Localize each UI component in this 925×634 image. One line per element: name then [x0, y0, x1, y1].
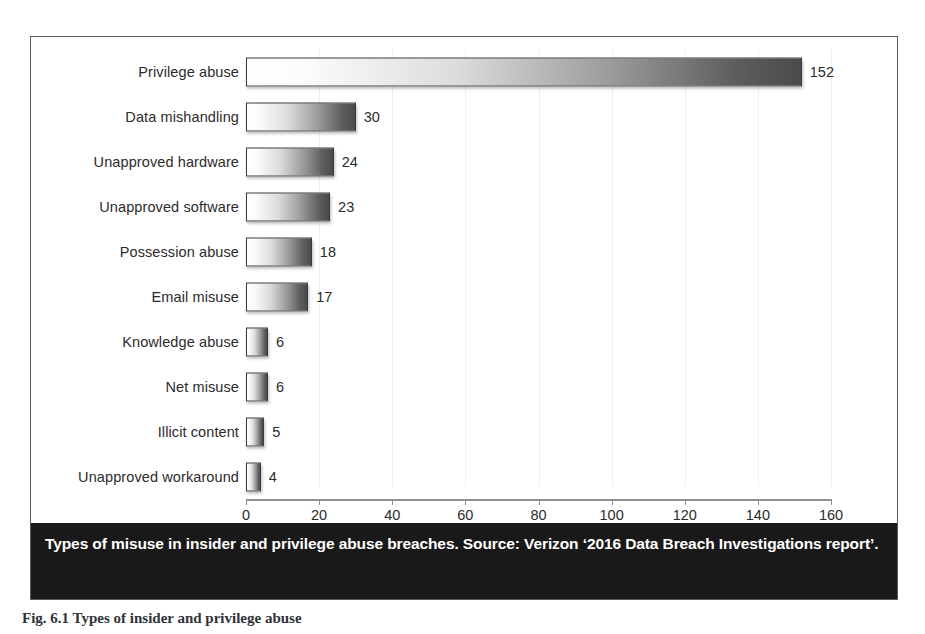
bar-track: 5 — [246, 409, 897, 454]
x-tick-140 — [758, 499, 759, 505]
bar-track: 6 — [246, 364, 897, 409]
category-label: Email misuse — [31, 289, 239, 305]
x-tick-label: 140 — [746, 507, 770, 523]
bar — [246, 462, 261, 491]
x-tick-label: 160 — [819, 507, 843, 523]
category-label-wrap: Illicit content — [31, 409, 239, 454]
bar-track: 4 — [246, 454, 897, 499]
category-label-wrap: Unapproved workaround — [31, 454, 239, 499]
bar-track: 6 — [246, 319, 897, 364]
category-label: Possession abuse — [31, 244, 239, 260]
category-label-wrap: Data mishandling — [31, 94, 239, 139]
x-tick-60 — [465, 499, 466, 505]
bar-value-label: 18 — [320, 244, 336, 260]
category-label: Illicit content — [31, 424, 239, 440]
category-label: Privilege abuse — [31, 64, 239, 80]
bar-value-label: 5 — [272, 424, 280, 440]
bar — [246, 237, 312, 266]
bar-row: Illicit content5 — [31, 409, 897, 454]
figure-number-caption: Fig. 6.1 Types of insider and privilege … — [22, 612, 542, 634]
x-tick-label: 20 — [311, 507, 327, 523]
category-label: Data mishandling — [31, 109, 239, 125]
bar-row: Possession abuse18 — [31, 229, 897, 274]
bar-row: Privilege abuse152 — [31, 49, 897, 94]
bar-row: Unapproved workaround4 — [31, 454, 897, 499]
bar-rows: Privilege abuse152Data mishandling30Unap… — [31, 49, 897, 499]
bar-track: 152 — [246, 49, 897, 94]
bar-value-label: 17 — [316, 289, 332, 305]
bar — [246, 417, 264, 446]
category-label-wrap: Unapproved software — [31, 184, 239, 229]
category-label-wrap: Net misuse — [31, 364, 239, 409]
category-label-wrap: Unapproved hardware — [31, 139, 239, 184]
bar-row: Unapproved hardware24 — [31, 139, 897, 184]
bar-value-label: 4 — [269, 469, 277, 485]
bar-value-label: 23 — [338, 199, 354, 215]
category-label: Unapproved software — [31, 199, 239, 215]
bar — [246, 282, 308, 311]
x-tick-100 — [612, 499, 613, 505]
x-tick-label: 120 — [673, 507, 697, 523]
x-tick-20 — [319, 499, 320, 505]
bar-value-label: 30 — [364, 109, 380, 125]
x-tick-40 — [392, 499, 393, 505]
x-tick-160 — [831, 499, 832, 505]
bar-track: 24 — [246, 139, 897, 184]
category-label: Unapproved workaround — [31, 469, 239, 485]
bar-row: Knowledge abuse6 — [31, 319, 897, 364]
bar-track: 18 — [246, 229, 897, 274]
x-tick-0 — [246, 499, 247, 505]
caption-bar: Types of misuse in insider and privilege… — [31, 523, 897, 599]
x-tick-80 — [539, 499, 540, 505]
bar-value-label: 152 — [810, 64, 834, 80]
category-label: Knowledge abuse — [31, 334, 239, 350]
bar — [246, 57, 802, 86]
bar-value-label: 6 — [276, 379, 284, 395]
x-tick-label: 80 — [530, 507, 546, 523]
x-tick-label: 100 — [600, 507, 624, 523]
x-tick-label: 60 — [457, 507, 473, 523]
bar-row: Unapproved software23 — [31, 184, 897, 229]
category-label-wrap: Email misuse — [31, 274, 239, 319]
category-label: Net misuse — [31, 379, 239, 395]
bar — [246, 327, 268, 356]
x-tick-label: 40 — [384, 507, 400, 523]
bar-value-label: 24 — [342, 154, 358, 170]
bar-track: 17 — [246, 274, 897, 319]
figure-panel: Privilege abuse152Data mishandling30Unap… — [30, 36, 898, 600]
x-tick-120 — [685, 499, 686, 505]
bar — [246, 147, 334, 176]
bar-row: Email misuse17 — [31, 274, 897, 319]
caption-text: Types of misuse in insider and privilege… — [45, 532, 883, 555]
figure-number-caption-text: Fig. 6.1 Types of insider and privilege … — [22, 612, 302, 627]
category-label-wrap: Possession abuse — [31, 229, 239, 274]
bar-row: Data mishandling30 — [31, 94, 897, 139]
bar — [246, 192, 330, 221]
x-axis-line — [246, 499, 831, 501]
chart-plot-area: Privilege abuse152Data mishandling30Unap… — [31, 37, 897, 525]
bar-track: 30 — [246, 94, 897, 139]
x-tick-label: 0 — [242, 507, 250, 523]
bar-value-label: 6 — [276, 334, 284, 350]
bar — [246, 372, 268, 401]
category-label-wrap: Privilege abuse — [31, 49, 239, 94]
bar-track: 23 — [246, 184, 897, 229]
category-label: Unapproved hardware — [31, 154, 239, 170]
bar — [246, 102, 356, 131]
category-label-wrap: Knowledge abuse — [31, 319, 239, 364]
bar-row: Net misuse6 — [31, 364, 897, 409]
